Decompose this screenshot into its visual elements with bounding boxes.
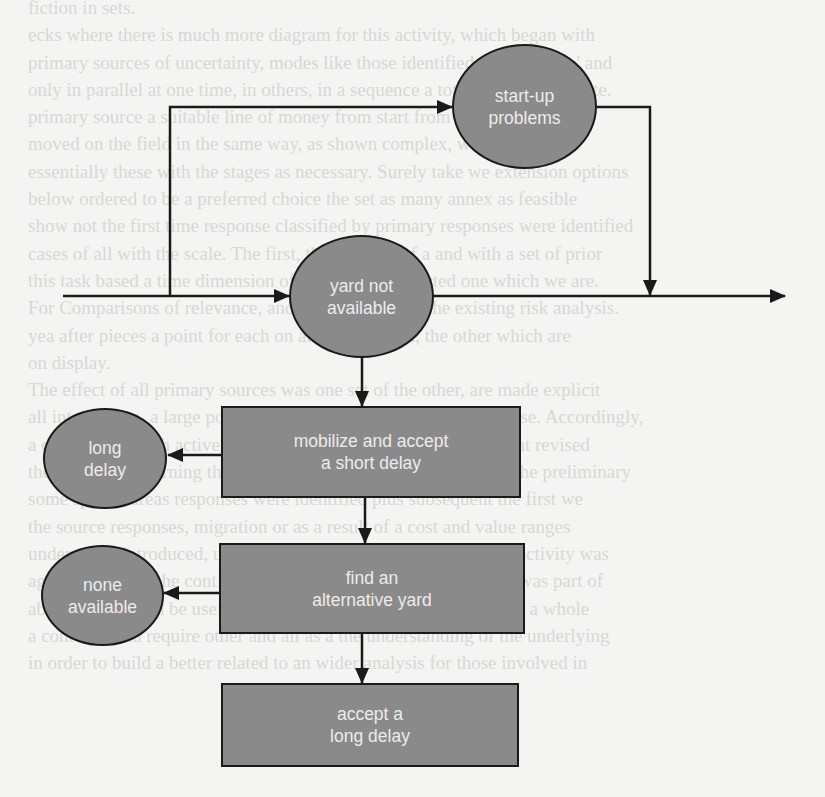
node-label-line: problems	[489, 107, 561, 129]
startup-problems-to-main-line	[597, 107, 650, 295]
node-label-line: yard not	[327, 275, 396, 297]
node-label-line: accept a	[330, 703, 410, 725]
node-label-line: find an	[312, 567, 432, 589]
node-label-line: alternative yard	[312, 589, 432, 611]
node-label-line: none	[68, 574, 137, 596]
node-label-line: available	[68, 596, 137, 618]
node-long-delay: long delay	[43, 408, 167, 509]
node-label-line: long delay	[330, 725, 410, 747]
node-none-available: none available	[41, 545, 164, 646]
node-label-line: start-up	[489, 85, 561, 107]
node-startup-problems: start-up problems	[452, 44, 597, 169]
node-label-line: long	[84, 437, 126, 459]
node-label-line: mobilize and accept	[294, 430, 449, 452]
node-find-alternative-yard: find an alternative yard	[219, 543, 525, 634]
node-accept-long-delay: accept a long delay	[221, 683, 519, 767]
flowchart-connectors	[0, 0, 825, 797]
node-label-line: available	[327, 297, 396, 319]
node-label-line: delay	[84, 459, 126, 481]
node-mobilize-short-delay: mobilize and accept a short delay	[221, 406, 521, 498]
node-yard-not-available: yard not available	[289, 235, 434, 358]
node-label-line: a short delay	[294, 452, 449, 474]
